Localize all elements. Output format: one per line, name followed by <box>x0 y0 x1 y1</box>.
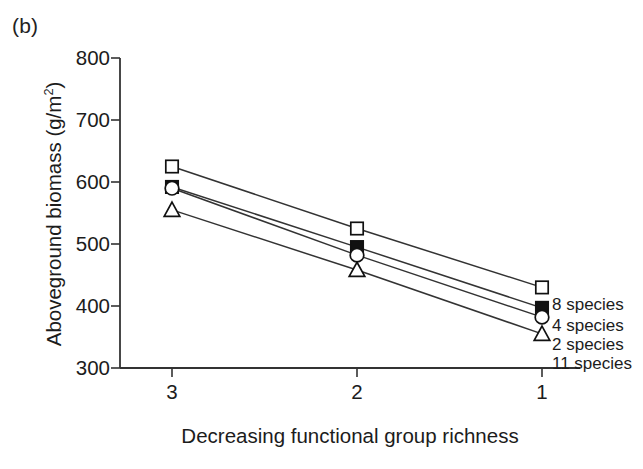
figure-panel-b: (b) Aboveground biomass (g/m2) Decreasin… <box>0 0 643 469</box>
plot-area <box>0 0 643 469</box>
data-series-layer <box>164 160 550 340</box>
series-line-segment <box>357 229 542 288</box>
markers-4-species <box>166 181 548 314</box>
legend-item-8-species: 8 species <box>552 295 624 315</box>
marker-open-triangle <box>349 262 365 276</box>
marker-open-circle <box>535 310 549 324</box>
axes <box>111 58 580 377</box>
marker-open-square <box>351 222 363 234</box>
marker-open-square <box>536 281 548 293</box>
marker-open-circle <box>165 181 179 195</box>
series-line-segment <box>357 270 542 334</box>
series-line-segment <box>357 255 542 317</box>
series-line-segment <box>172 187 357 247</box>
series-line-segment <box>357 247 542 308</box>
marker-open-triangle <box>164 202 180 216</box>
marker-open-triangle <box>534 326 550 340</box>
legend-item-2-species: 2 species <box>552 335 624 355</box>
marker-open-circle <box>350 248 364 262</box>
legend-item-11-species: 11 species <box>552 354 632 374</box>
legend-item-4-species: 4 species <box>552 316 624 336</box>
marker-open-square <box>166 160 178 172</box>
